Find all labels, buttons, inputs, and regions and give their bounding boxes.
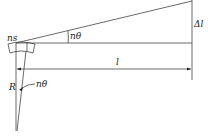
angle-label-bottom: nθ [36, 79, 48, 89]
tilted-line [17, 51, 26, 131]
mirror-plate-icon [8, 42, 35, 53]
angle-label-top: nθ [70, 31, 82, 41]
distance-label: l [116, 57, 119, 67]
reflected-ray-line [16, 1, 192, 43]
optical-lever-diagram: nθ Δl l ns R nθ [0, 0, 208, 140]
radius-label: R [8, 82, 16, 92]
angle-leader-line [22, 84, 35, 88]
delta-l-label: Δl [193, 19, 203, 29]
ns-label: ns [7, 33, 18, 43]
